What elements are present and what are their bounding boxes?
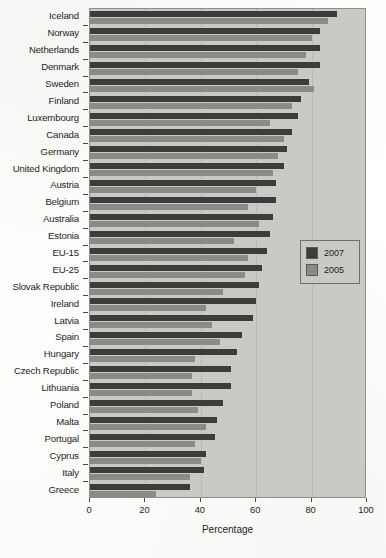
y-axis-label: Luxembourg — [0, 113, 79, 123]
bar-2007 — [90, 197, 276, 203]
y-axis-label: Hungary — [0, 349, 79, 359]
y-axis-tick — [83, 414, 88, 415]
y-axis-label: Poland — [0, 400, 79, 410]
y-axis-tick — [83, 160, 88, 161]
bar-2007 — [90, 231, 270, 237]
x-axis-tick-label: 40 — [182, 505, 218, 515]
bar-2007 — [90, 96, 301, 102]
y-axis-label: United Kingdom — [0, 164, 79, 174]
y-axis-label: Finland — [0, 96, 79, 106]
x-axis-tick-label: 80 — [293, 505, 329, 515]
bar-2005 — [90, 153, 278, 159]
y-axis-label: Sweden — [0, 79, 79, 89]
bar-chart: IcelandNorwayNetherlandsDenmarkSwedenFin… — [0, 0, 386, 558]
legend-item-2007[interactable]: 2007 — [306, 246, 344, 260]
bar-2005 — [90, 103, 292, 109]
y-axis-label: Ireland — [0, 299, 79, 309]
y-axis-label: Czech Republic — [0, 366, 79, 376]
y-axis-label: Netherlands — [0, 45, 79, 55]
bar-2007 — [90, 248, 267, 254]
y-axis-label: Austria — [0, 180, 79, 190]
y-axis-tick — [83, 380, 88, 381]
y-axis-label: Latvia — [0, 316, 79, 326]
x-axis-tick — [255, 498, 256, 502]
bar-2005 — [90, 458, 201, 464]
bar-2007 — [90, 45, 320, 51]
y-axis-tick — [83, 211, 88, 212]
y-axis-label: EU-25 — [0, 265, 79, 275]
y-axis-label: Australia — [0, 214, 79, 224]
bar-2007 — [90, 298, 256, 304]
x-axis-tick-label: 60 — [237, 505, 273, 515]
bar-2005 — [90, 255, 248, 261]
legend-label: 2007 — [324, 248, 344, 258]
bar-2005 — [90, 322, 212, 328]
bar-2007 — [90, 129, 292, 135]
y-axis-tick — [83, 228, 88, 229]
y-axis-tick — [83, 464, 88, 465]
legend-label: 2005 — [324, 265, 344, 275]
y-axis-label: Cyprus — [0, 451, 79, 461]
bar-2005 — [90, 35, 312, 41]
bar-2007 — [90, 451, 206, 457]
bar-2005 — [90, 18, 328, 24]
y-axis-tick — [83, 42, 88, 43]
bar-2005 — [90, 52, 306, 58]
bar-2007 — [90, 265, 262, 271]
bar-2007 — [90, 62, 320, 68]
bar-2005 — [90, 136, 284, 142]
y-axis-label: Lithuania — [0, 383, 79, 393]
y-axis-label: Iceland — [0, 11, 79, 21]
bar-2005 — [90, 356, 195, 362]
x-axis-tick — [200, 498, 201, 502]
y-axis-tick — [83, 329, 88, 330]
bar-2005 — [90, 407, 198, 413]
y-axis-label: Slovak Republic — [0, 282, 79, 292]
y-axis-tick — [83, 177, 88, 178]
bar-2005 — [90, 289, 223, 295]
y-axis-tick — [83, 126, 88, 127]
bar-2005 — [90, 474, 190, 480]
y-axis-tick — [83, 278, 88, 279]
y-axis-tick — [83, 481, 88, 482]
y-axis-tick — [83, 25, 88, 26]
chart-legend[interactable]: 20072005 — [300, 240, 360, 284]
y-axis-label: EU-15 — [0, 248, 79, 258]
bar-2005 — [90, 187, 256, 193]
bar-2005 — [90, 69, 298, 75]
bar-2005 — [90, 390, 192, 396]
bar-2007 — [90, 113, 298, 119]
y-axis-tick — [83, 295, 88, 296]
bar-2005 — [90, 491, 156, 497]
y-axis-tick — [83, 346, 88, 347]
bar-2007 — [90, 315, 253, 321]
bar-2005 — [90, 441, 195, 447]
x-axis-tick — [89, 498, 90, 502]
x-axis-tick — [366, 498, 367, 502]
y-axis-label: Greece — [0, 485, 79, 495]
y-axis-label: Italy — [0, 468, 79, 478]
bar-2005 — [90, 170, 273, 176]
bar-2005 — [90, 221, 259, 227]
legend-item-2005[interactable]: 2005 — [306, 263, 344, 277]
y-axis-tick — [83, 143, 88, 144]
y-axis-tick — [83, 430, 88, 431]
y-axis-tick — [83, 397, 88, 398]
bar-2007 — [90, 383, 231, 389]
bar-2007 — [90, 146, 287, 152]
bar-2007 — [90, 180, 276, 186]
y-axis-tick — [83, 447, 88, 448]
y-axis-tick — [83, 109, 88, 110]
x-axis-tick-label: 100 — [348, 505, 384, 515]
bar-2007 — [90, 163, 284, 169]
bar-2005 — [90, 339, 220, 345]
bar-2007 — [90, 332, 242, 338]
y-axis-tick — [83, 363, 88, 364]
bar-2005 — [90, 204, 248, 210]
y-axis-category-labels: IcelandNorwayNetherlandsDenmarkSwedenFin… — [0, 8, 86, 498]
bar-2007 — [90, 400, 223, 406]
x-axis-title: Percentage — [89, 524, 366, 535]
y-axis-tick — [83, 92, 88, 93]
x-axis-tick — [144, 498, 145, 502]
y-axis-label: Germany — [0, 147, 79, 157]
